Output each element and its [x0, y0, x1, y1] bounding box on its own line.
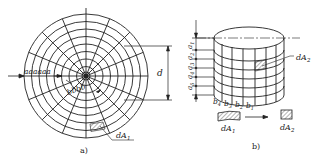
height-dimension	[192, 20, 214, 102]
width-labels: b4 b3 b2 b1	[213, 97, 254, 111]
svg-text:b3: b3	[224, 99, 232, 109]
svg-text:b1: b1	[246, 101, 254, 111]
caption-b: b)	[252, 142, 260, 151]
caption-a: a)	[80, 146, 88, 155]
svg-text:a4: a4	[186, 72, 195, 79]
arc-spacing-labels: bbbb	[66, 82, 87, 97]
svg-text:b4: b4	[213, 97, 221, 107]
flat-element-da2	[281, 110, 292, 119]
curved-element-da1	[218, 111, 240, 121]
radial-spacing-labels: aaaaaa	[24, 67, 51, 76]
da2-label-cylinder: dA2	[296, 53, 311, 63]
da2-leader	[262, 56, 294, 66]
svg-text:a5: a5	[186, 83, 195, 90]
cylinder	[214, 27, 284, 106]
svg-text:a3: a3	[186, 63, 195, 70]
svg-text:b2: b2	[235, 100, 243, 110]
dimension-d-label: d	[157, 68, 163, 78]
area-element-da1	[90, 122, 105, 132]
svg-text:a2: a2	[186, 53, 195, 60]
transform-arrow	[245, 115, 268, 118]
da1-label: dA1	[116, 131, 130, 141]
transform-to-label: dA2	[280, 123, 295, 133]
svg-text:a1: a1	[186, 42, 195, 49]
diagram-canvas: aaaaaa bbbb d dA1 a)	[0, 0, 316, 160]
transform-from-label: dA1	[221, 124, 235, 134]
height-labels: a1 a2 a3 a4 a5	[186, 42, 195, 90]
area-element-da2-on-cylinder	[255, 60, 266, 71]
